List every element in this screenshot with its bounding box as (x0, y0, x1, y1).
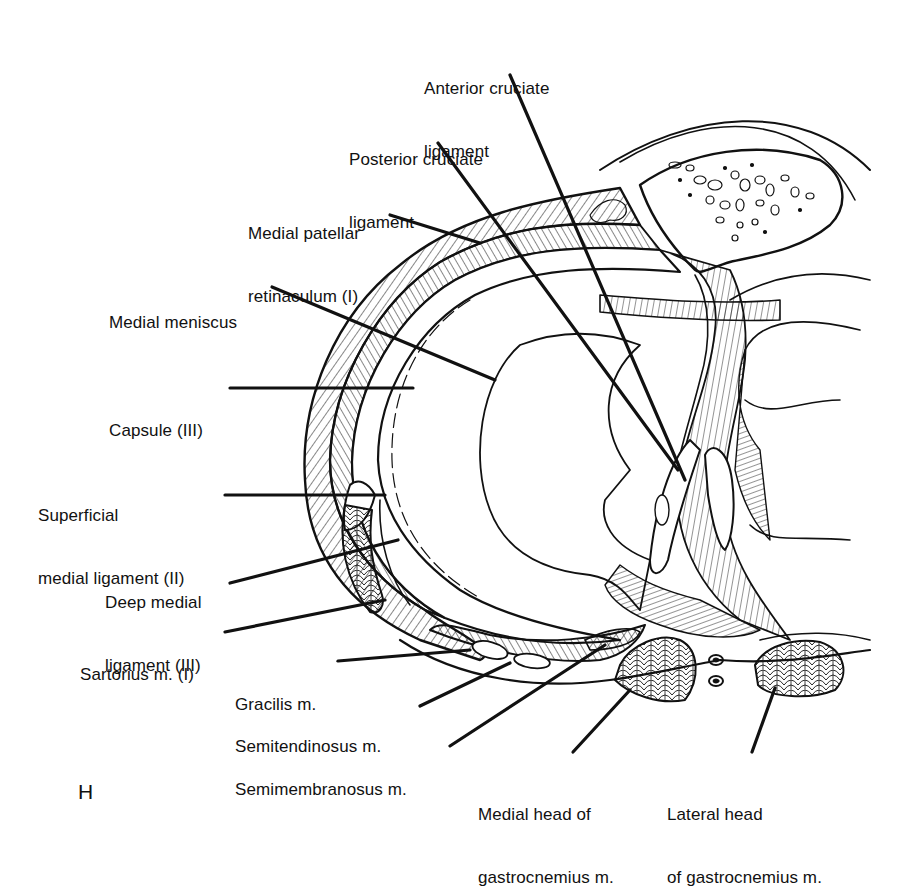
leader-sartorius (225, 600, 385, 632)
label-line: Medial head of (478, 804, 614, 825)
label-lateral-head-gastrocnemius: Lateral head of gastrocnemius m. (667, 762, 822, 890)
label-medial-meniscus: Medial meniscus (109, 270, 237, 354)
label-line: Lateral head (667, 804, 822, 825)
label-capsule: Capsule (III) (109, 378, 203, 462)
label-medial-head-gastrocnemius: Medial head of gastrocnemius m. (478, 762, 614, 890)
label-line: Semimembranosus m. (235, 779, 407, 800)
label-semimembranosus: Semimembranosus m. (235, 737, 407, 821)
label-line: Medial patellar (248, 223, 360, 244)
leader-gracilis (338, 650, 470, 661)
label-line: Capsule (III) (109, 420, 203, 441)
label-line: Sartorius m. (I) (80, 664, 194, 685)
label-medial-patellar-retinaculum: Medial patellar retinaculum (I) (248, 181, 360, 328)
label-line: Superficial (38, 505, 185, 526)
label-line: Deep medial (105, 592, 202, 613)
leader-lateral-gastrocnemius (752, 688, 775, 752)
label-posterior-cruciate-ligament: Posterior cruciate ligament (349, 107, 483, 254)
label-line: ligament (349, 212, 483, 233)
label-sartorius: Sartorius m. (I) (80, 622, 194, 706)
semimembranosus-tendon (585, 629, 640, 650)
label-line: gastrocnemius m. (478, 867, 614, 888)
label-line: of gastrocnemius m. (667, 867, 822, 888)
panel-letter: H (78, 780, 93, 804)
label-line: Anterior cruciate (424, 78, 549, 99)
label-line: Posterior cruciate (349, 149, 483, 170)
leader-medial-gastrocnemius (573, 690, 630, 752)
lateral-gastrocnemius (755, 641, 843, 696)
label-line: retinaculum (I) (248, 286, 360, 307)
label-line: Medial meniscus (109, 312, 237, 333)
